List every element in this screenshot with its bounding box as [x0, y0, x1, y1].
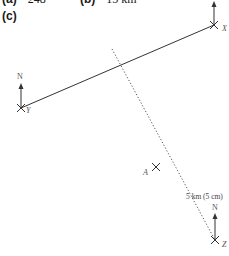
point-y: N Y — [17, 72, 32, 115]
distance-label: 5 km (5 cm) — [186, 192, 223, 201]
north-arrowhead-x-icon — [212, 1, 217, 7]
label-z: Z — [222, 240, 227, 249]
north-arrowhead-y-icon — [19, 83, 24, 89]
dotted-line-a-z — [112, 49, 215, 240]
label-y: Y — [26, 106, 32, 115]
point-x: X — [210, 1, 228, 33]
north-arrowhead-z-icon — [213, 213, 218, 219]
point-z: N Z — [211, 203, 227, 249]
bearing-diagram: X N Y A 5 km (5 cm) N Z — [0, 0, 229, 256]
north-label-z: N — [212, 203, 218, 212]
north-label-y: N — [17, 72, 23, 81]
cross-a-icon — [152, 163, 160, 171]
line-y-x — [21, 25, 214, 108]
label-x: X — [221, 24, 228, 33]
point-a: A — [142, 163, 160, 177]
label-a: A — [142, 168, 148, 177]
diagram-stage: (a) 248 (b) 15 km (c) X N — [0, 0, 229, 256]
